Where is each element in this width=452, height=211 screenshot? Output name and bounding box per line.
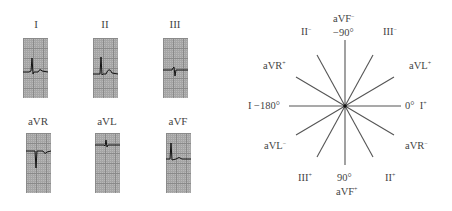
label-avf-plus: aVF+ xyxy=(336,187,357,198)
label-avl-plus: aVL+ xyxy=(409,61,431,72)
label-90: 90° xyxy=(337,173,352,184)
label-avf-minus: aVF− xyxy=(333,14,354,25)
center-point xyxy=(343,104,347,108)
label-ii-minus: II− xyxy=(301,27,311,38)
label-i-minus-180: I −180° xyxy=(248,101,280,112)
label-ii-plus: II+ xyxy=(385,173,395,184)
label-iii-minus: III− xyxy=(383,27,397,38)
label-avl-minus: aVL− xyxy=(264,141,286,152)
label-avr-minus: aVR− xyxy=(405,141,428,152)
label-0-i-plus: 0° I+ xyxy=(405,101,427,112)
label-iii-plus: III+ xyxy=(298,173,312,184)
label-minus-90: −90° xyxy=(333,28,354,39)
label-avr-plus: aVR+ xyxy=(263,61,286,72)
